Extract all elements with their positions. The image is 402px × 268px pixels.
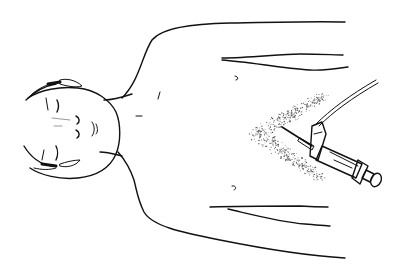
clavicle-mark: [158, 92, 160, 99]
neck: [100, 94, 132, 156]
ear-top: [60, 79, 82, 87]
eye-top: [57, 100, 59, 112]
torso-outline-bottom: [118, 152, 345, 258]
eye-top-brow: [46, 98, 48, 110]
mouth: [92, 122, 94, 136]
eye-bottom: [56, 146, 58, 160]
nipple-bottom: [232, 186, 236, 190]
nose: [76, 116, 79, 138]
syringe: [282, 80, 383, 188]
ear-bottom: [60, 160, 80, 167]
eye-bottom-brow: [42, 150, 44, 160]
head: [24, 79, 120, 178]
illustration: [0, 0, 402, 268]
nipple-top: [235, 76, 238, 80]
stippled-area: [249, 93, 329, 180]
